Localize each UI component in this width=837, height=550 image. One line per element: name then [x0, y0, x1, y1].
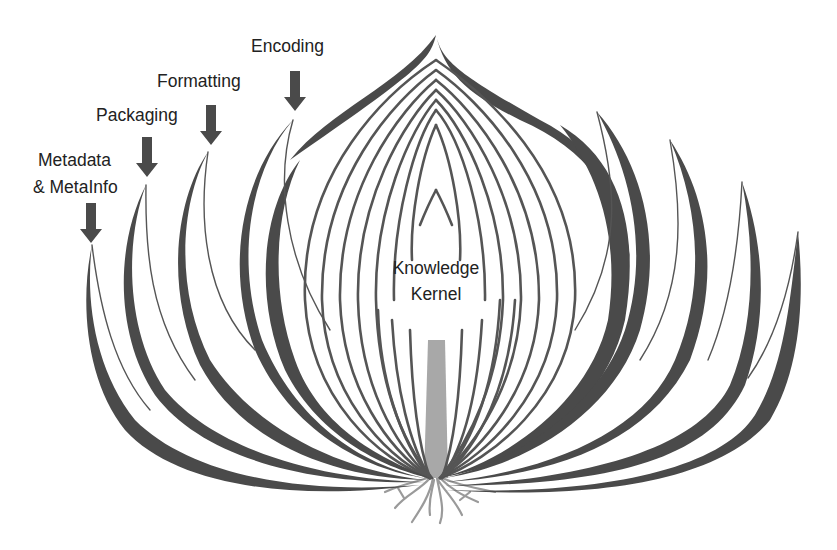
label-packaging: Packaging [96, 104, 178, 126]
label-knowledge-kernel-line2: Kernel [386, 283, 486, 305]
stem [424, 340, 448, 478]
label-encoding: Encoding [251, 35, 324, 57]
label-knowledge-kernel-line1: Knowledge [386, 257, 486, 279]
label-metadata-line1: Metadata [38, 149, 111, 171]
onion-diagram: Encoding Formatting Packaging Metadata &… [0, 0, 837, 550]
down-arrow-icon [136, 137, 158, 177]
label-formatting: Formatting [157, 70, 241, 92]
down-arrow-icon [80, 203, 102, 243]
down-arrow-icon [200, 105, 222, 145]
label-metadata-line2: & MetaInfo [33, 176, 118, 198]
down-arrow-icon [284, 71, 306, 111]
